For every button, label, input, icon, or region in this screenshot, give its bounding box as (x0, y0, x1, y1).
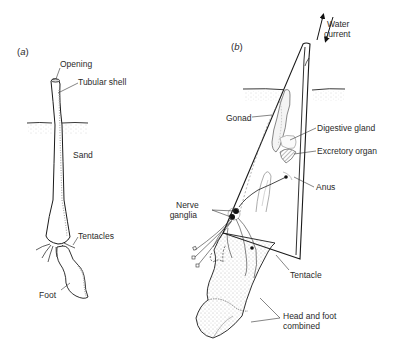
foot-a (57, 246, 88, 298)
leader-head-foot-2 (251, 318, 280, 322)
leader-gonad (252, 115, 272, 117)
label-head-and-foot: Head and foot combined (283, 311, 336, 331)
label-tubular-shell: Tubular shell (78, 77, 126, 87)
label-excretory-organ: Excretory organ (317, 146, 377, 156)
leader-tentacle (276, 255, 289, 270)
panel-a-drawing (27, 68, 88, 298)
tubular-shell (46, 79, 70, 244)
label-opening: Opening (60, 59, 92, 69)
leader-nerve-ganglia-1 (212, 210, 235, 211)
panel-b-drawing (192, 16, 345, 338)
anatomy-diagram (0, 0, 403, 355)
panel-a-label: (a) (17, 46, 29, 57)
leader-opening (56, 68, 60, 79)
leader-tubular-shell (58, 83, 78, 93)
sand-surface-a (27, 123, 52, 124)
label-gonad: Gonad (226, 113, 252, 123)
label-tentacles: Tentacles (78, 231, 114, 241)
label-tentacle: Tentacle (290, 270, 322, 280)
head-and-foot (196, 233, 275, 338)
label-anus: Anus (316, 182, 335, 192)
nerve-ganglion-2 (229, 214, 235, 220)
leader-head-foot-1 (260, 298, 280, 318)
panel-b-label: (b) (231, 41, 243, 52)
label-sand: Sand (73, 150, 93, 160)
label-digestive-gland: Digestive gland (317, 123, 375, 133)
label-foot: Foot (39, 290, 56, 300)
label-nerve-ganglia: Nerve ganglia (168, 200, 199, 220)
shell-opening (52, 79, 60, 82)
label-water-current: Water current (324, 19, 350, 39)
